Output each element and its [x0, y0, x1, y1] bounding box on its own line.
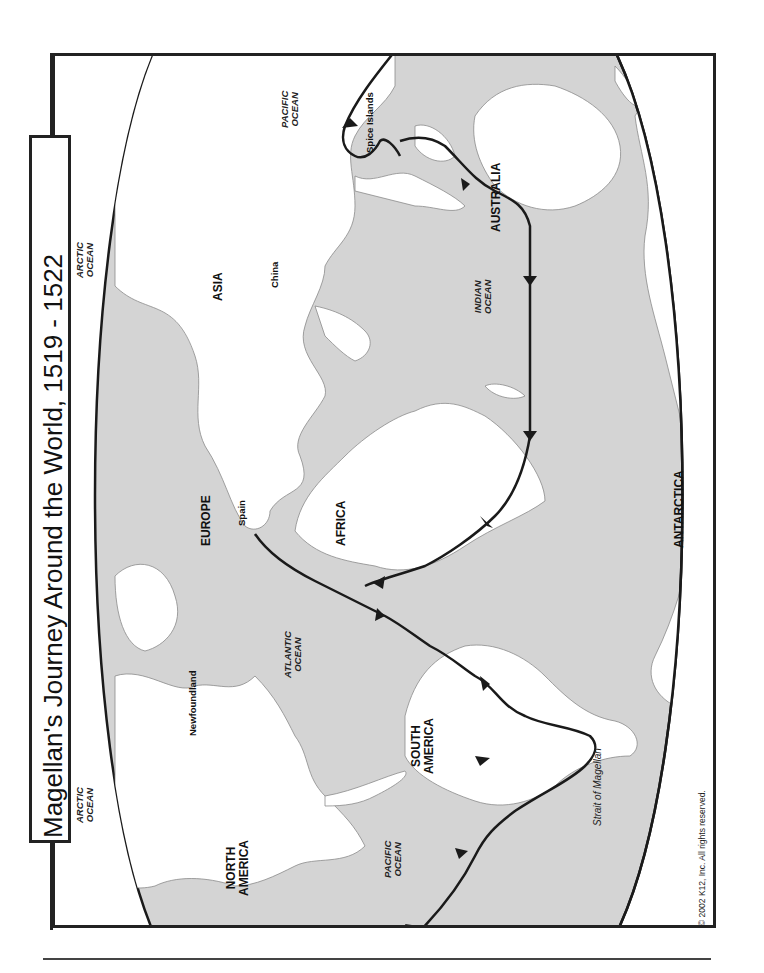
arctic-ocean-east-label: ARCTIC OCEAN: [75, 242, 95, 278]
pacific-ocean-west-label: PACIFIC OCEAN: [383, 841, 403, 878]
map-title: Magellan's Journey Around the World, 151…: [38, 138, 69, 838]
title-stem-top: [50, 53, 53, 137]
pacific-ocean-east-label: PACIFIC OCEAN: [280, 91, 300, 128]
antarctica-label: ANTARCTICA: [673, 470, 686, 548]
atlantic-ocean-label: ATLANTIC OCEAN: [283, 631, 303, 678]
asia-label: ASIA: [212, 272, 225, 301]
ocean-line2: OCEAN: [293, 631, 303, 678]
north-america-label: NORTH AMERICA: [225, 840, 250, 896]
continent-line2: AMERICA: [423, 718, 436, 774]
europe-label: EUROPE: [200, 495, 213, 546]
china-label: China: [270, 262, 280, 288]
ocean-line2: OCEAN: [393, 841, 403, 878]
ocean-line2: OCEAN: [290, 91, 300, 128]
copyright-notice: © 2002 K12, Inc. All rights reserved.: [698, 790, 707, 926]
title-box: Magellan's Journey Around the World, 151…: [29, 135, 71, 843]
ocean-line2: OCEAN: [85, 787, 95, 823]
indian-ocean-label: INDIAN OCEAN: [473, 280, 493, 314]
bottom-divider: [43, 958, 711, 960]
strait-of-magellan-label: Strait of Magellan: [593, 748, 604, 826]
ocean-line2: OCEAN: [483, 280, 493, 314]
spain-label: Spain: [237, 500, 247, 526]
title-stem-bottom: [50, 842, 53, 930]
arctic-ocean-west-label: ARCTIC OCEAN: [75, 787, 95, 823]
continent-line1: NORTH: [225, 840, 238, 896]
newfoundland-label: Newfoundland: [188, 671, 198, 736]
continent-line2: AMERICA: [238, 840, 251, 896]
map-frame: ARCTIC OCEAN ARCTIC OCEAN PACIFIC OCEAN …: [52, 53, 716, 928]
south-america-label: SOUTH AMERICA: [410, 718, 435, 774]
spice-islands-label: Spice Islands: [365, 92, 375, 153]
continent-line1: SOUTH: [410, 718, 423, 774]
ocean-line2: OCEAN: [85, 242, 95, 278]
world-map: [55, 56, 716, 928]
africa-label: AFRICA: [335, 501, 348, 546]
australia-label: AUSTRALIA: [490, 163, 503, 232]
